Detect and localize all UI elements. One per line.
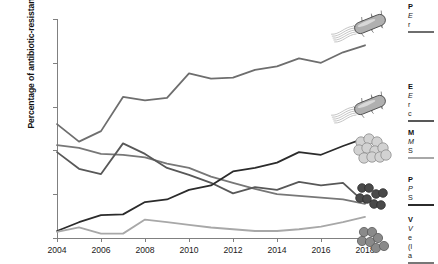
x-axis-tick-label: 2006: [81, 245, 121, 255]
x-axis-tick: [57, 238, 58, 242]
x-axis-tick-label: 2008: [125, 245, 165, 255]
x-axis-tick-label: 2012: [213, 245, 253, 255]
legend-entry-antibiotic: e: [408, 233, 438, 242]
series-line: [57, 45, 365, 141]
legend-color-swatch: [408, 120, 434, 122]
legend-entry-antibiotic: S: [408, 193, 438, 202]
x-axis-line: [57, 238, 365, 239]
x-axis-tick: [277, 238, 278, 242]
x-axis-tick-label: 2014: [257, 245, 297, 255]
x-axis-tick-label: 2004: [37, 245, 77, 255]
legend-entry-antibiotic: (l: [408, 242, 438, 251]
legend-entry-antibiotic: r: [408, 100, 438, 109]
legend-entry-antibiotic: S: [408, 146, 438, 155]
legend-entry-antibiotic: a: [408, 251, 438, 260]
y-axis-tick: [53, 150, 57, 151]
plot-area: 0%5%10%15%20%25%200420062008201020122014…: [57, 19, 365, 238]
legend-entry-species: E: [408, 91, 438, 100]
y-axis-tick: [53, 63, 57, 64]
y-axis-tick: [53, 107, 57, 108]
legend-color-swatch: [408, 157, 434, 159]
legend-entry[interactable]: PEr: [408, 2, 438, 33]
x-axis-tick: [189, 238, 190, 242]
y-axis-tick: [53, 194, 57, 195]
legend-color-swatch: [408, 31, 434, 33]
legend-entry-name: M: [408, 128, 438, 137]
legend-entry-name: P: [408, 175, 438, 184]
legend-entry-name: E: [408, 82, 438, 91]
legend-entry-antibiotic: r: [408, 20, 438, 29]
legend-entry-antibiotic: c: [408, 109, 438, 118]
legend-entry-name: V: [408, 215, 438, 224]
legend-entry-species: P: [408, 184, 438, 193]
y-axis-tick: [53, 19, 57, 20]
legend-entry[interactable]: EErc: [408, 82, 438, 122]
x-axis-tick-label: 2010: [169, 245, 209, 255]
legend-entry[interactable]: MMS: [408, 128, 438, 159]
legend-entry[interactable]: PPS: [408, 175, 438, 206]
x-axis-tick: [321, 238, 322, 242]
x-axis-tick: [101, 238, 102, 242]
chart-legend: PErEErcMMSPPSVVe(la: [330, 0, 425, 263]
x-axis-tick: [233, 238, 234, 242]
legend-entry-species: V: [408, 224, 438, 233]
series-line: [57, 143, 365, 203]
legend-entry[interactable]: VVe(la: [408, 215, 438, 264]
series-line: [57, 217, 365, 234]
legend-entry-species: M: [408, 137, 438, 146]
legend-color-swatch: [408, 204, 434, 206]
series-lines: [57, 19, 365, 238]
legend-entry-name: P: [408, 2, 438, 11]
x-axis-tick: [145, 238, 146, 242]
legend-entry-species: E: [408, 11, 438, 20]
y-axis-title: Percentage of antibiotic-resistant bacte…: [26, 0, 36, 130]
